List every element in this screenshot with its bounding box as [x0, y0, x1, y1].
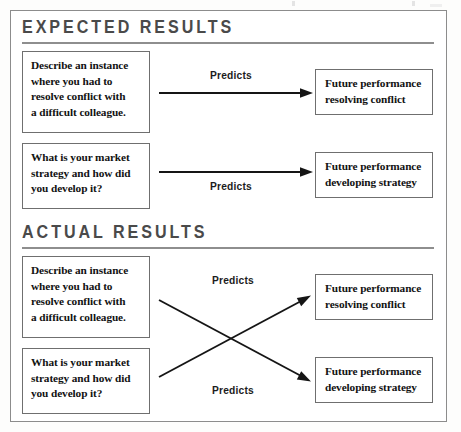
- outcome-box-strategy-expected: Future performance developing strategy: [315, 152, 433, 198]
- question-line: resolve conflict with: [31, 294, 149, 310]
- outcome-line: developing strategy: [325, 380, 432, 396]
- question-box-conflict-actual: Describe an instance where you had to re…: [22, 256, 150, 338]
- question-line: a difficult colleague.: [31, 105, 149, 121]
- question-line: Describe an instance: [31, 58, 149, 74]
- outcome-line: Future performance: [325, 159, 432, 175]
- question-line: Describe an instance: [31, 263, 149, 279]
- outcome-box-conflict-actual: Future performance resolving conflict: [315, 274, 433, 320]
- diagram-figure: EXPECTED RESULTS Describe an instance wh…: [0, 0, 461, 432]
- relation-label-expected-1: Predicts: [210, 69, 252, 81]
- relation-label-actual-2: Predicts: [212, 384, 254, 396]
- section-title-actual: ACTUAL RESULTS: [22, 222, 208, 243]
- scan-artifact: [412, 1, 415, 6]
- section-divider-expected: [22, 42, 434, 44]
- section-title-expected: EXPECTED RESULTS: [22, 17, 234, 38]
- outcome-line: developing strategy: [325, 175, 432, 191]
- question-box-conflict-expected: Describe an instance where you had to re…: [22, 51, 150, 133]
- question-line: strategy and how did: [31, 371, 149, 387]
- question-box-strategy-actual: What is your market strategy and how did…: [22, 348, 150, 414]
- outcome-box-strategy-actual: Future performance developing strategy: [315, 357, 433, 403]
- outcome-line: Future performance: [325, 76, 432, 92]
- outcome-line: Future performance: [325, 281, 432, 297]
- question-line: a difficult colleague.: [31, 310, 149, 326]
- question-line: you develop it?: [31, 181, 149, 197]
- question-line: where you had to: [31, 279, 149, 295]
- outcome-line: Future performance: [325, 364, 432, 380]
- outcome-line: resolving conflict: [325, 297, 432, 313]
- relation-label-expected-2: Predicts: [210, 180, 252, 192]
- scan-artifact: [430, 4, 442, 7]
- relation-label-actual-1: Predicts: [212, 274, 254, 286]
- section-divider-actual: [22, 247, 434, 249]
- question-line: you develop it?: [31, 386, 149, 402]
- scan-artifact: [292, 1, 295, 6]
- outcome-box-conflict-expected: Future performance resolving conflict: [315, 69, 433, 115]
- question-line: resolve conflict with: [31, 89, 149, 105]
- outcome-line: resolving conflict: [325, 92, 432, 108]
- question-line: What is your market: [31, 150, 149, 166]
- question-line: What is your market: [31, 355, 149, 371]
- question-box-strategy-expected: What is your market strategy and how did…: [22, 143, 150, 209]
- question-line: where you had to: [31, 74, 149, 90]
- question-line: strategy and how did: [31, 166, 149, 182]
